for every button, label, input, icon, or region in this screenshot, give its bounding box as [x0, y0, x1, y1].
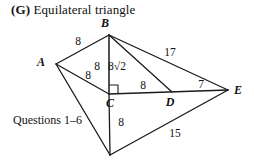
vertex-label-d: D: [165, 95, 175, 109]
diagram-edge-af: [56, 64, 110, 155]
questions-caption: Questions 1–6: [13, 113, 82, 128]
diagram-edge-ce: [109, 90, 228, 94]
measure-label-ac: 8: [85, 69, 91, 81]
diagram-edge-ac: [56, 64, 109, 94]
measure-label-fe: 15: [169, 127, 181, 139]
measure-label-cd: 8: [140, 79, 146, 91]
diagram-edges: [56, 35, 228, 155]
measure-label-ab: 8: [75, 35, 81, 47]
vertex-label-b: B: [100, 16, 109, 30]
measure-label-de: 7: [198, 78, 204, 90]
measure-label-cf: 8: [118, 116, 124, 128]
measure-label-bd: 8√2: [108, 60, 126, 72]
right-angle-marker: [109, 85, 118, 94]
figure-panel: (G) Equilateral triangle 8888√21787815 A…: [0, 0, 254, 162]
geometry-diagram: 8888√21787815 ABCDE: [0, 0, 254, 162]
diagram-measure-labels: 8888√21787815: [75, 35, 204, 139]
right-angle-square: [109, 85, 118, 94]
diagram-edge-ab: [56, 35, 109, 64]
vertex-label-c: C: [106, 96, 115, 110]
measure-label-bc: 8: [94, 60, 100, 72]
vertex-label-a: A: [36, 55, 45, 69]
measure-label-be: 17: [164, 46, 176, 58]
vertex-label-e: E: [233, 83, 242, 97]
diagram-edge-be: [109, 35, 228, 90]
